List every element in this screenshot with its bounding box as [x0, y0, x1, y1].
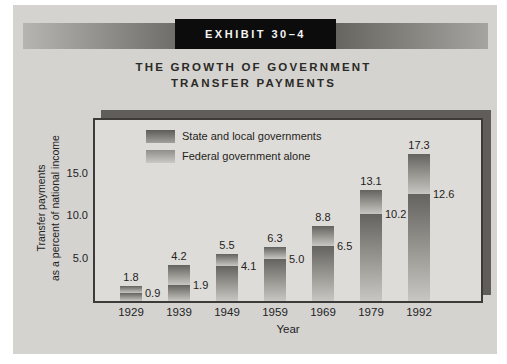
- bar-1949: [216, 254, 238, 301]
- bar-segment-federal: [168, 285, 190, 301]
- x-tick-label-1992: 1992: [394, 306, 444, 318]
- x-tick-label-1939: 1939: [154, 306, 204, 318]
- exhibit-title-line2: TRANSFER PAYMENTS: [0, 76, 507, 92]
- bar-segment-federal: [408, 194, 430, 301]
- total-value-label: 17.3: [394, 139, 444, 152]
- x-axis-title: Year: [93, 323, 483, 335]
- x-tick-label-1949: 1949: [202, 306, 252, 318]
- y-axis-title: Transfer payments as a percent of nation…: [35, 118, 63, 298]
- bar-segment-state-local: [408, 154, 430, 194]
- bar-segment-state-local: [312, 226, 334, 246]
- y-tick-label-5.0: 5.0: [46, 252, 88, 266]
- bar-1959: [264, 247, 286, 301]
- legend-swatch-federal: [146, 150, 175, 163]
- bar-1939: [168, 265, 190, 301]
- x-tick-label-1969: 1969: [298, 306, 348, 318]
- exhibit-title-line1: THE GROWTH OF GOVERNMENT: [0, 60, 507, 76]
- exhibit-title: THE GROWTH OF GOVERNMENT TRANSFER PAYMEN…: [0, 60, 507, 91]
- bar-segment-state-local: [216, 254, 238, 266]
- plot-panel: State and local governments Federal gove…: [93, 118, 483, 303]
- total-value-label: 8.8: [298, 211, 348, 224]
- federal-value-label: 12.6: [433, 188, 473, 201]
- x-tick-label-1959: 1959: [250, 306, 300, 318]
- bar-1979: [360, 190, 382, 301]
- bar-segment-federal: [360, 214, 382, 301]
- bar-segment-federal: [216, 266, 238, 301]
- bar-segment-state-local: [120, 286, 142, 294]
- legend-item-state-local: State and local governments: [146, 126, 321, 146]
- bar-segment-state-local: [168, 265, 190, 285]
- total-value-label: 6.3: [250, 232, 300, 245]
- exhibit-number-banner: EXHIBIT 30–4: [175, 19, 336, 49]
- chart-legend: State and local governments Federal gove…: [146, 126, 321, 166]
- y-axis-title-line2: as a percent of national income: [49, 118, 63, 298]
- bar-segment-state-local: [360, 190, 382, 215]
- bar-segment-federal: [120, 293, 142, 301]
- bar-1969: [312, 226, 334, 301]
- exhibit-page: EXHIBIT 30–4 THE GROWTH OF GOVERNMENT TR…: [0, 0, 507, 364]
- total-value-label: 5.5: [202, 239, 252, 252]
- bar-segment-state-local: [264, 247, 286, 258]
- banner-gradient-left: [23, 23, 175, 49]
- y-axis-title-line1: Transfer payments: [35, 118, 49, 298]
- bar-segment-federal: [264, 259, 286, 302]
- total-value-label: 4.2: [154, 250, 204, 263]
- y-tick-label-15.0: 15.0: [46, 167, 88, 181]
- bar-segment-federal: [312, 246, 334, 301]
- total-value-label: 1.8: [106, 271, 156, 284]
- bar-1992: [408, 154, 430, 301]
- bar-1929: [120, 286, 142, 301]
- x-tick-label-1929: 1929: [106, 306, 156, 318]
- legend-label-federal: Federal government alone: [182, 150, 310, 162]
- legend-swatch-state-local: [146, 130, 175, 143]
- legend-item-federal: Federal government alone: [146, 146, 321, 166]
- y-tick-label-10.0: 10.0: [46, 209, 88, 223]
- legend-label-state-local: State and local governments: [182, 130, 321, 142]
- total-value-label: 13.1: [346, 175, 396, 188]
- x-tick-label-1979: 1979: [346, 306, 396, 318]
- banner-gradient-right: [336, 23, 488, 49]
